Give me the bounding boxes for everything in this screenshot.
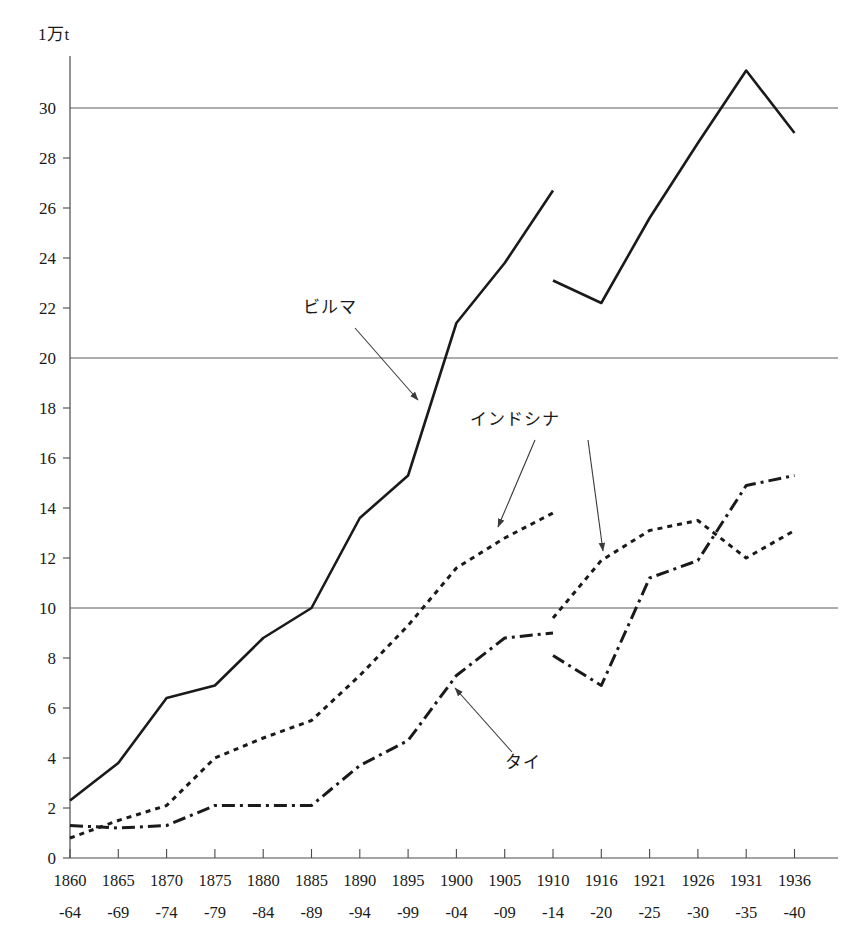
series-annotation-label: ビルマ (303, 298, 357, 317)
x-tick-label-start-year: 1910 (537, 871, 570, 890)
series-line-dotted-segment-0 (70, 513, 553, 838)
x-tick-label-end-year: -94 (349, 903, 371, 922)
series-line-dashdot-segment-1 (553, 476, 795, 686)
x-tick-label-end-year: -09 (494, 903, 516, 922)
y-tick-label: 28 (39, 149, 56, 168)
x-tick-label-end-year: -79 (204, 903, 226, 922)
y-tick-label: 14 (39, 499, 57, 518)
annotation-arrow (355, 328, 418, 400)
x-tick-label-start-year: 1875 (198, 871, 231, 890)
y-tick-label: 30 (39, 99, 56, 118)
x-tick-label-start-year: 1865 (102, 871, 135, 890)
x-tick-label-start-year: 1870 (150, 871, 183, 890)
x-tick-label-start-year: 1931 (730, 871, 763, 890)
annotations-group: ビルマインドシナタイ (303, 298, 603, 772)
x-tick-label-end-year: -04 (445, 903, 467, 922)
gridlines-group (70, 108, 838, 608)
x-tick-label-start-year: 1905 (488, 871, 521, 890)
chart-container: 1万t 024681012141618202224262830 ビルマインドシナ… (0, 0, 851, 937)
y-tick-label: 12 (39, 549, 56, 568)
axes-group (70, 56, 838, 858)
x-tick-label-end-year: -84 (252, 903, 274, 922)
x-tick-label-start-year: 1916 (585, 871, 618, 890)
x-tick-label-start-year: 1936 (778, 871, 811, 890)
x-tick-label-end-year: -25 (639, 903, 661, 922)
line-chart-svg: 024681012141618202224262830 ビルマインドシナタイ 1… (0, 0, 851, 937)
x-tick-label-end-year: -35 (735, 903, 757, 922)
x-tick-label-end-year: -89 (301, 903, 323, 922)
x-tick-label-end-year: -40 (784, 903, 806, 922)
y-tick-label: 0 (48, 849, 57, 868)
y-tick-label: 10 (39, 599, 56, 618)
y-tick-label: 24 (39, 249, 57, 268)
x-tick-label-start-year: 1895 (392, 871, 425, 890)
x-tick-label-end-year: -74 (156, 903, 178, 922)
y-tick-label: 2 (48, 799, 57, 818)
y-tick-label: 26 (39, 199, 56, 218)
x-tick-label-start-year: 1880 (247, 871, 280, 890)
y-tick-label: 16 (39, 449, 56, 468)
x-axis-labels: 1860186518701875188018851890189519001905… (54, 871, 812, 922)
y-axis-ticks: 024681012141618202224262830 (39, 99, 70, 868)
x-tick-label-start-year: 1926 (681, 871, 714, 890)
x-tick-label-start-year: 1885 (295, 871, 328, 890)
x-tick-label-start-year: 1900 (440, 871, 473, 890)
x-tick-label-end-year: -69 (107, 903, 129, 922)
annotation-arrow (588, 440, 603, 551)
annotation-arrow (498, 440, 535, 527)
series-line-solid-segment-0 (70, 191, 553, 801)
x-tick-label-end-year: -20 (590, 903, 612, 922)
y-tick-label: 4 (48, 749, 57, 768)
series-line-solid-segment-1 (553, 71, 795, 304)
y-tick-label: 20 (39, 349, 56, 368)
y-tick-label: 18 (39, 399, 56, 418)
y-tick-label: 6 (48, 699, 57, 718)
x-tick-label-end-year: -30 (687, 903, 709, 922)
x-tick-label-end-year: -99 (397, 903, 419, 922)
x-tick-label-end-year: -64 (59, 903, 81, 922)
x-axis-ticks (70, 849, 795, 858)
x-tick-label-end-year: -14 (542, 903, 564, 922)
data-series-group (70, 71, 795, 839)
annotation-arrow (455, 688, 512, 752)
x-tick-label-start-year: 1921 (633, 871, 666, 890)
x-tick-label-start-year: 1890 (343, 871, 376, 890)
y-tick-label: 22 (39, 299, 56, 318)
series-annotation-label: タイ (505, 753, 541, 772)
x-tick-label-start-year: 1860 (54, 871, 87, 890)
y-tick-label: 8 (48, 649, 57, 668)
series-annotation-label: インドシナ (470, 410, 560, 429)
